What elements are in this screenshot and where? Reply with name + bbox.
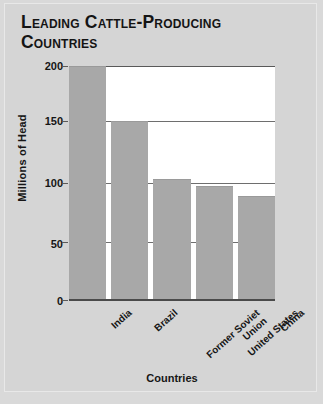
chart-title: Leading Cattle-Producing Countries <box>21 12 301 52</box>
bar-slot-united-states <box>196 66 233 301</box>
plot-area <box>69 66 275 301</box>
y-axis: 200 150 100 50 0 <box>23 4 63 391</box>
y-tick-label-0: 0 <box>29 296 63 307</box>
bar-slot-former-soviet-union <box>153 66 190 301</box>
y-tick-label-200: 200 <box>29 61 63 72</box>
y-tick-label-50: 50 <box>29 239 63 250</box>
bar-china[interactable] <box>238 196 275 301</box>
y-tick-label-150: 150 <box>29 116 63 127</box>
bar-slot-brazil <box>111 66 148 301</box>
y-tick-label-100: 100 <box>29 178 63 189</box>
bar-slot-china <box>238 66 275 301</box>
bar-brazil[interactable] <box>111 121 148 301</box>
y-axis-title: Millions of Head <box>16 108 28 208</box>
bar-india[interactable] <box>69 66 106 301</box>
x-tick-label-india: India <box>109 307 134 331</box>
x-tick-label-brazil: Brazil <box>152 307 180 333</box>
bar-slot-india <box>69 66 106 301</box>
y-tick-mark-100 <box>62 183 68 184</box>
chart-figure: Leading Cattle-Producing Countries 200 1… <box>4 3 317 392</box>
x-axis-title: Countries <box>69 372 275 384</box>
y-tick-mark-150 <box>62 121 68 122</box>
y-tick-mark-0 <box>62 300 68 301</box>
x-axis-line <box>69 299 275 301</box>
bar-series <box>69 66 275 301</box>
bar-former-soviet-union[interactable] <box>153 179 190 301</box>
y-tick-mark-200 <box>62 66 68 67</box>
bar-united-states[interactable] <box>196 186 233 301</box>
y-tick-mark-50 <box>62 242 68 243</box>
